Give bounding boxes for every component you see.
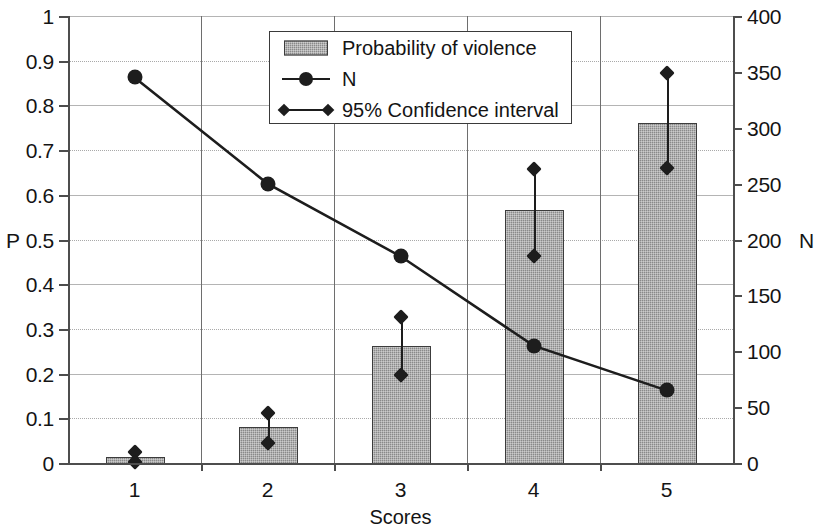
x-axis-tick-label: 3 — [361, 479, 441, 500]
y-axis-left-tick-label: 0.9 — [0, 51, 54, 72]
y-axis-left-tick-label: 0.6 — [0, 185, 54, 206]
chart-legend: Probability of violence N 95% Confidence… — [269, 31, 572, 124]
axis-tick — [59, 195, 68, 197]
y-axis-left-tick-label: 1 — [0, 6, 54, 27]
y-axis-left-tick-label: 0.8 — [0, 95, 54, 116]
bar-swatch-icon — [284, 40, 328, 55]
x-axis-tick-label: 1 — [95, 479, 175, 500]
y-axis-left-title: P — [6, 230, 20, 251]
legend-item-probability: Probability of violence — [270, 32, 571, 63]
y-axis-right-tick-label: 350 — [747, 62, 781, 83]
confidence-interval-line — [534, 169, 536, 257]
n-data-point — [393, 249, 408, 264]
axis-tick — [59, 418, 68, 420]
axis-tick — [59, 105, 68, 107]
y-axis-right-tick-label: 250 — [747, 174, 781, 195]
y-axis-left-tick-label: 0.1 — [0, 408, 54, 429]
x-axis-tick-label: 4 — [494, 479, 574, 500]
y-axis-left-tick-label: 0 — [0, 453, 54, 474]
legend-item-n: N — [270, 63, 571, 94]
confidence-interval-line — [401, 317, 403, 375]
y-axis-left-line — [68, 16, 70, 463]
axis-tick — [59, 61, 68, 63]
legend-label-ci: 95% Confidence interval — [342, 98, 559, 121]
circle-marker-icon — [299, 72, 313, 86]
y-axis-right-tick-label: 0 — [747, 453, 758, 474]
y-axis-right-tick-label: 300 — [747, 118, 781, 139]
y-axis-left-tick-label: 0.2 — [0, 364, 54, 385]
diamond-marker-left-icon — [278, 103, 291, 116]
y-axis-left-tick-label: 0.7 — [0, 140, 54, 161]
legend-label-probability: Probability of violence — [342, 36, 537, 59]
n-data-point — [526, 338, 541, 353]
y-axis-right-tick-label: 50 — [747, 397, 770, 418]
y-axis-right-tick-label: 200 — [747, 230, 781, 251]
x-axis-title: Scores — [301, 507, 501, 527]
x-axis-tick-label: 5 — [627, 479, 707, 500]
axis-tick — [59, 374, 68, 376]
legend-item-ci: 95% Confidence interval — [270, 94, 571, 125]
axis-tick — [59, 16, 68, 18]
axis-tick — [733, 463, 742, 465]
axis-tick — [59, 329, 68, 331]
y-axis-left-tick-label: 0.4 — [0, 274, 54, 295]
axis-tick — [59, 284, 68, 286]
y-axis-left-tick-label: 0.3 — [0, 319, 54, 340]
axis-tick — [59, 463, 68, 465]
y-axis-right-line — [733, 16, 735, 463]
n-data-point — [659, 383, 674, 398]
axis-tick — [59, 150, 68, 152]
n-data-point — [127, 70, 142, 85]
axis-tick — [59, 240, 68, 242]
y-axis-right-title: N — [799, 230, 814, 251]
x-axis-line — [68, 463, 733, 465]
y-axis-right-tick-label: 150 — [747, 285, 781, 306]
legend-label-n: N — [342, 67, 356, 90]
confidence-interval-line — [667, 73, 669, 168]
diamond-marker-right-icon — [322, 103, 335, 116]
x-axis-tick-label: 2 — [228, 479, 308, 500]
n-data-point — [260, 176, 275, 191]
y-axis-right-tick-label: 400 — [747, 6, 781, 27]
y-axis-right-tick-label: 100 — [747, 341, 781, 362]
